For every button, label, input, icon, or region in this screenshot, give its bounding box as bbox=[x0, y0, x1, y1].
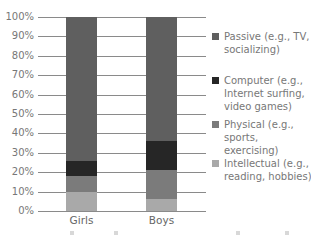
bar-segment bbox=[146, 17, 177, 141]
y-tick-label: 40% bbox=[0, 128, 34, 138]
y-tick-label: 90% bbox=[0, 31, 34, 41]
legend-label: Computer (e.g.,Internet surfing,video ga… bbox=[224, 74, 311, 113]
gridline bbox=[38, 153, 206, 154]
y-tick-label: 0% bbox=[0, 206, 34, 216]
y-tick-label: 100% bbox=[0, 12, 34, 22]
legend-swatch-icon bbox=[212, 77, 219, 84]
gridline bbox=[38, 133, 206, 134]
bar-segment bbox=[146, 199, 177, 211]
cutoff-text-fragment bbox=[70, 231, 74, 235]
x-tick-label: Boys bbox=[137, 214, 187, 226]
cutoff-text-fragment bbox=[114, 231, 118, 235]
legend-label: Intellectual (e.g.,reading, hobbies) bbox=[224, 157, 311, 183]
gridline bbox=[38, 75, 206, 76]
gridline bbox=[38, 95, 206, 96]
gridline bbox=[38, 114, 206, 115]
y-tick-label: 70% bbox=[0, 70, 34, 80]
gridline bbox=[38, 192, 206, 193]
bar-segment bbox=[66, 161, 97, 177]
bar-segment bbox=[146, 170, 177, 199]
gridline bbox=[38, 172, 206, 173]
y-tick-label: 80% bbox=[0, 51, 34, 61]
stacked-bar-chart: 0%10%20%30%40%50%60%70%80%90%100% GirlsB… bbox=[0, 0, 311, 236]
bar-segment bbox=[146, 141, 177, 170]
legend-label: Physical (e.g.,sports, exercising) bbox=[224, 118, 311, 157]
y-tick-label: 20% bbox=[0, 167, 34, 177]
y-tick-label: 30% bbox=[0, 148, 34, 158]
y-tick-label: 60% bbox=[0, 90, 34, 100]
gridline bbox=[38, 56, 206, 57]
x-tick-label: Girls bbox=[57, 214, 107, 226]
y-tick-label: 50% bbox=[0, 109, 34, 119]
cutoff-text-fragment bbox=[285, 231, 289, 235]
bar-boys bbox=[146, 17, 177, 211]
legend-swatch-icon bbox=[212, 160, 219, 167]
bar-girls bbox=[66, 17, 97, 211]
legend-label: Passive (e.g., TV,socializing) bbox=[224, 30, 311, 56]
gridline bbox=[38, 17, 206, 18]
cutoff-text-fragment bbox=[236, 231, 240, 235]
bar-segment bbox=[66, 192, 97, 211]
bar-segment bbox=[66, 176, 97, 192]
legend-swatch-icon bbox=[212, 121, 219, 128]
gridline bbox=[38, 211, 206, 212]
gridline bbox=[38, 36, 206, 37]
y-tick-label: 10% bbox=[0, 187, 34, 197]
legend-swatch-icon bbox=[212, 33, 219, 40]
bar-segment bbox=[66, 17, 97, 161]
